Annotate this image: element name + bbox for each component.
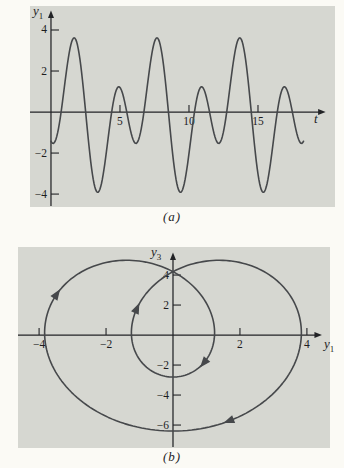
y-tick-label: −2 bbox=[157, 359, 169, 371]
chart-b-caption: (b) bbox=[0, 449, 344, 465]
chart-b-background bbox=[18, 247, 330, 448]
y-tick-label: −2 bbox=[35, 147, 47, 159]
y-tick-label: −4 bbox=[157, 389, 169, 401]
x-tick-label: 15 bbox=[252, 115, 264, 127]
chart-b-plot: −4−22442−2−4−6 bbox=[18, 247, 330, 448]
chart-a-x-axis-label: t bbox=[314, 112, 318, 129]
y-tick-label: −4 bbox=[35, 188, 47, 200]
x-tick-label: 5 bbox=[117, 115, 123, 127]
chart-a-plot: 5101542−2−4 bbox=[30, 6, 335, 207]
chart-a-y-axis-label: y1 bbox=[33, 4, 43, 21]
chart-b-y-axis-label: y3 bbox=[151, 245, 161, 262]
y-tick-label: 4 bbox=[41, 23, 47, 35]
y-tick-label: −6 bbox=[157, 419, 169, 431]
x-tick-label: −4 bbox=[33, 338, 45, 350]
chart-a-caption: (a) bbox=[0, 209, 344, 225]
chart-b-panel: −4−22442−2−4−6 bbox=[18, 247, 330, 448]
figure-page: { "page": { "background": "#fbfaf5" }, "… bbox=[0, 0, 344, 468]
x-tick-label: 2 bbox=[237, 338, 243, 350]
chart-a-background bbox=[30, 6, 335, 207]
x-tick-label: 4 bbox=[304, 338, 310, 350]
y-tick-label: 2 bbox=[41, 65, 47, 77]
chart-b-x-axis-label: y1 bbox=[324, 337, 334, 354]
y-tick-label: 2 bbox=[163, 299, 169, 311]
x-tick-label: −2 bbox=[100, 338, 112, 350]
chart-a-panel: 5101542−2−4 bbox=[30, 6, 335, 207]
